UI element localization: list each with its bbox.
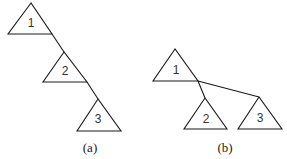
subtree-node-1: 1 bbox=[153, 49, 198, 81]
subtree-node-2: 2 bbox=[184, 98, 227, 129]
edges-b bbox=[198, 81, 259, 98]
node-label: 3 bbox=[257, 111, 264, 125]
panel-b: 1 2 3 (b) bbox=[153, 49, 282, 155]
node-label: 3 bbox=[95, 112, 102, 126]
node-label: 2 bbox=[62, 64, 69, 78]
subtree-node-3: 3 bbox=[77, 99, 121, 131]
node-label: 1 bbox=[173, 63, 180, 77]
subtree-node-1: 1 bbox=[8, 3, 52, 34]
edge-2-to-3 bbox=[87, 82, 98, 99]
node-label: 1 bbox=[28, 16, 35, 30]
node-label: 2 bbox=[203, 112, 210, 126]
subtree-node-3: 3 bbox=[238, 97, 282, 129]
tree-diagram: 1 2 3 (a) 1 2 3 (b) bbox=[0, 0, 287, 159]
edge-1-to-3 bbox=[198, 81, 259, 97]
panel-a: 1 2 3 (a) bbox=[8, 3, 121, 155]
edge-1-to-2 bbox=[52, 34, 64, 52]
caption-b: (b) bbox=[217, 140, 232, 155]
subtree-node-2: 2 bbox=[43, 52, 87, 82]
caption-a: (a) bbox=[83, 140, 97, 155]
edge-1-to-2 bbox=[198, 81, 205, 98]
